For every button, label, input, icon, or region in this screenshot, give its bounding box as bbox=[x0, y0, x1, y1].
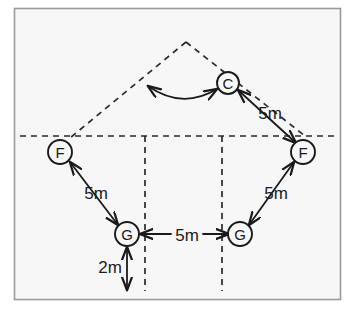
node-f-left[interactable]: F bbox=[48, 140, 72, 164]
label-5m-g-to-g: 5m bbox=[175, 226, 199, 245]
node-f-right[interactable]: F bbox=[291, 140, 315, 164]
label-2m-g-left-down: 2m bbox=[98, 258, 122, 277]
node-g-left[interactable]: G bbox=[115, 222, 139, 246]
label-5m-f-left-to-g-left: 5m bbox=[84, 184, 108, 203]
node-c-label: C bbox=[223, 75, 234, 92]
figure-root: C F F G G 5m 5m 5m 5m bbox=[0, 0, 354, 316]
label-5m-f-right-to-g-right: 5m bbox=[264, 184, 288, 203]
node-c[interactable]: C bbox=[217, 72, 239, 94]
label-5m-c-to-f-right: 5m bbox=[258, 104, 282, 123]
node-g-left-label: G bbox=[121, 226, 133, 243]
node-g-right[interactable]: G bbox=[228, 222, 252, 246]
node-f-left-label: F bbox=[55, 144, 64, 161]
node-f-right-label: F bbox=[298, 144, 307, 161]
node-g-right-label: G bbox=[234, 226, 246, 243]
formation-diagram: C F F G G 5m 5m 5m 5m bbox=[0, 0, 354, 316]
